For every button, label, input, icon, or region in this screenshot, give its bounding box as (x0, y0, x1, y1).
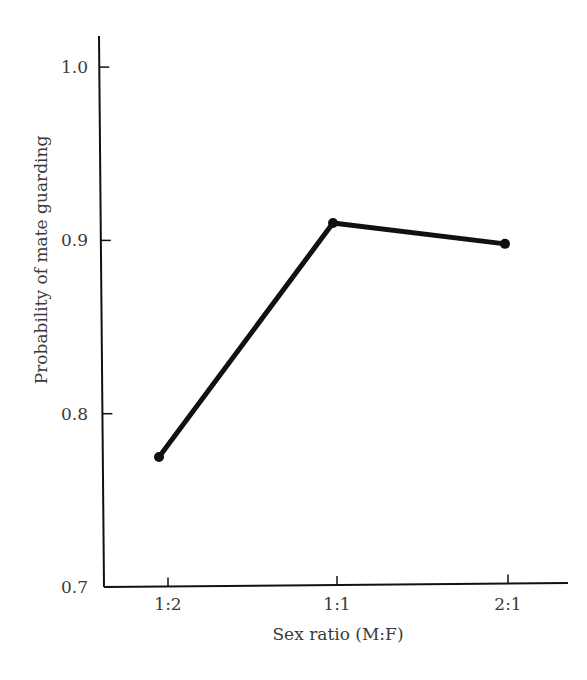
data-point (154, 452, 164, 462)
data-line (159, 223, 505, 457)
x-axis (104, 583, 568, 587)
x-tick-label: 1:2 (154, 594, 181, 614)
chart: 0.70.80.91.0 1:21:12:1 Sex ratio (M:F) P… (0, 0, 587, 680)
data-markers (154, 218, 510, 462)
y-ticks: 0.70.80.91.0 (61, 57, 112, 597)
x-ticks: 1:21:12:1 (154, 575, 521, 614)
y-tick-label: 0.9 (61, 230, 88, 250)
y-tick-label: 1.0 (61, 57, 88, 77)
x-axis-title: Sex ratio (M:F) (272, 624, 403, 644)
data-point (500, 239, 510, 249)
x-tick-label: 2:1 (494, 594, 521, 614)
data-point (328, 218, 338, 228)
y-axis (99, 36, 104, 587)
y-tick-label: 0.7 (61, 577, 88, 597)
y-tick-label: 0.8 (61, 404, 88, 424)
x-tick-label: 1:1 (323, 594, 350, 614)
y-axis-title: Probability of mate guarding (31, 136, 51, 385)
